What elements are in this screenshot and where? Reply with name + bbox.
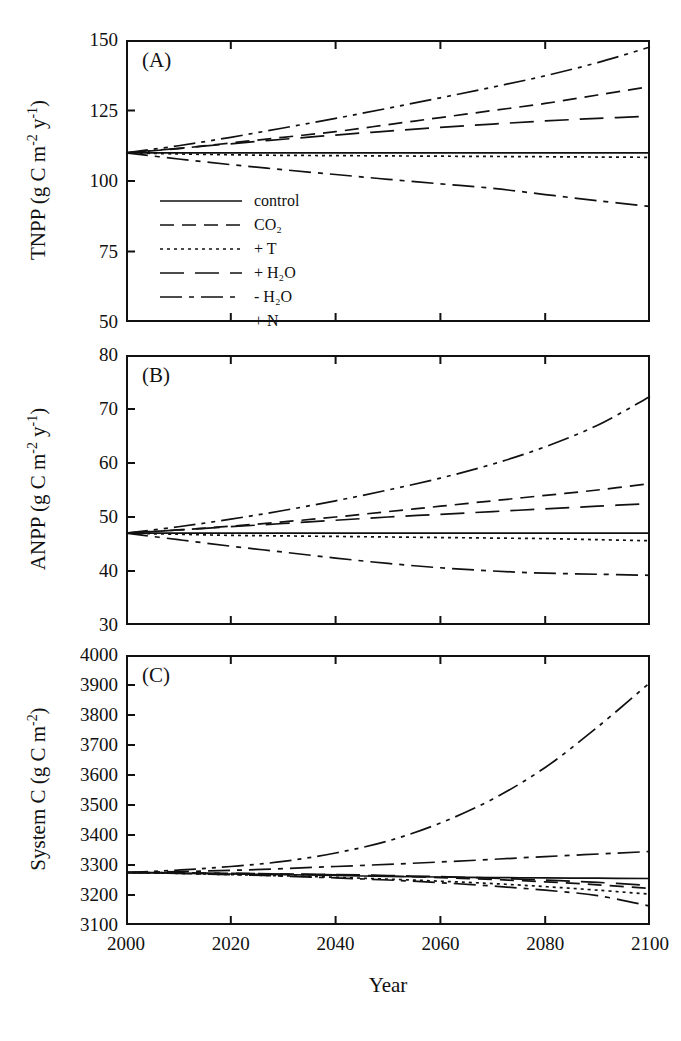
legend-line-sample [158,237,244,261]
legend-label: + T [254,237,277,261]
legend-label: control [254,189,299,213]
legend-line-sample [158,189,244,213]
legend: controlCO₂+ T+ H₂O- H₂O+ N [158,189,378,333]
legend-line-sample [158,309,244,333]
legend-label: + N [254,309,279,333]
legend-line-sample [158,213,244,237]
figure-three-panel-chart: 5075100125150(A)TNPP (g C m-2 y-1)304050… [0,0,681,1041]
legend-item--n[interactable]: + N [158,309,378,333]
legend-item--h2o[interactable]: - H₂O [158,285,378,309]
legend-label: CO₂ [254,213,282,237]
legend-item--h2o[interactable]: + H₂O [158,261,378,285]
legend-label: - H₂O [254,285,292,309]
legend-item--t[interactable]: + T [158,237,378,261]
legend-line-sample [158,285,244,309]
legend-line-sample [158,261,244,285]
curve-h2o-upper-c [126,852,650,873]
plot-canvas-c-secondary [0,0,681,1041]
legend-item-control[interactable]: control [158,189,378,213]
legend-item-co2[interactable]: CO₂ [158,213,378,237]
legend-label: + H₂O [254,261,296,285]
